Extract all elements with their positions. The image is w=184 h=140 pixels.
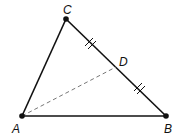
segment-ac bbox=[22, 19, 66, 116]
triangle-diagram: A B C D bbox=[0, 0, 184, 140]
vertex-c-dot bbox=[63, 16, 69, 22]
segment-ad-median bbox=[22, 67, 116, 116]
label-a: A bbox=[11, 122, 20, 136]
label-c: C bbox=[63, 3, 72, 17]
label-b: B bbox=[164, 122, 172, 136]
vertex-b-dot bbox=[163, 113, 169, 119]
vertex-a-dot bbox=[19, 113, 25, 119]
congruence-ticks-db bbox=[134, 83, 145, 94]
label-d: D bbox=[119, 55, 128, 69]
